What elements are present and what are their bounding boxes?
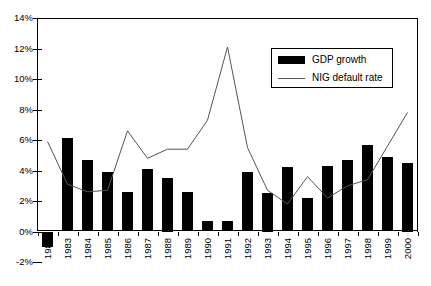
- y-tick-mark-inner: [38, 110, 42, 111]
- y-tick-mark-inner: [38, 262, 42, 263]
- legend-item-gdp-growth: GDP growth: [278, 52, 366, 68]
- chart-legend: GDP growth NIG default rate: [271, 48, 393, 88]
- y-tick-mark-inner: [38, 201, 42, 202]
- y-tick-mark-inner: [38, 140, 42, 141]
- y-tick-mark-inner: [38, 79, 42, 80]
- legend-line-swatch-icon: [278, 74, 305, 82]
- legend-label-nig-default-rate: NIG default rate: [312, 73, 383, 83]
- legend-label-gdp-growth: GDP growth: [312, 55, 366, 65]
- line-series-nig-default-rate: [0, 0, 431, 286]
- y-tick-mark-inner: [38, 18, 42, 19]
- y-tick-mark-inner: [38, 171, 42, 172]
- legend-bar-swatch-icon: [278, 56, 305, 64]
- y-tick-mark-inner: [38, 232, 42, 233]
- y-tick-mark-inner: [38, 49, 42, 50]
- legend-item-nig-default-rate: NIG default rate: [278, 70, 383, 86]
- chart-container: 14%12%10%8%6%4%2%0%-2% 19821983198419851…: [0, 0, 431, 286]
